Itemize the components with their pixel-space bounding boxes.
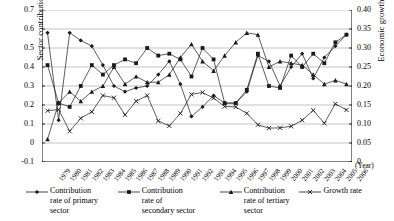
- legend-label-line: Growth rate: [323, 186, 361, 196]
- legend-label-line: rate of: [142, 196, 196, 206]
- y-tick-left-7: 0: [8, 138, 34, 147]
- legend-label-1: Contributionrate ofsecondary sector: [142, 186, 196, 216]
- series-1: [46, 33, 349, 109]
- legend-item-1[interactable]: Contributionrate ofsecondary sector: [118, 186, 220, 216]
- legend-label-0: Contributionrate of primarysector: [50, 186, 98, 216]
- y-tick-right-3: 0.25: [357, 62, 387, 71]
- y-tick-right-5: 0.15: [357, 100, 387, 109]
- series-0: [45, 31, 348, 123]
- plot-area: [42, 10, 352, 162]
- legend-label-line: sector: [244, 206, 290, 216]
- y-tick-left-4: 0.3: [8, 81, 34, 90]
- legend-item-2[interactable]: Contributionrate of tertiarysector: [220, 186, 300, 216]
- y-tick-left-3: 0.4: [8, 62, 34, 71]
- legend-item-0[interactable]: Contributionrate of primarysector: [26, 186, 118, 216]
- legend-label-line: Contribution: [142, 186, 196, 196]
- cross-marker: [299, 187, 321, 197]
- chart-legend: Contributionrate of primarysectorContrib…: [26, 186, 386, 216]
- y-tick-left-0: 0.7: [8, 5, 34, 14]
- y-tick-right-6: 0.10: [357, 119, 387, 128]
- legend-label-line: rate of primary: [50, 196, 98, 206]
- y-tick-left-1: 0.6: [8, 24, 34, 33]
- legend-label-line: Contribution: [50, 186, 98, 196]
- y-tick-left-6: 0.1: [8, 119, 34, 128]
- economic-contribution-chart: Sector contribution rate Economic growth…: [0, 0, 394, 221]
- y-tick-left-2: 0.5: [8, 43, 34, 52]
- y-tick-right-1: 0.35: [357, 24, 387, 33]
- y-tick-right-2: 0.30: [357, 43, 387, 52]
- legend-label-line: secondary sector: [142, 206, 196, 216]
- legend-label-3: Growth rate: [323, 186, 361, 196]
- series-canvas: [42, 10, 352, 162]
- y-tick-right-7: 0.05: [357, 138, 387, 147]
- legend-label-line: sector: [50, 206, 98, 216]
- legend-label-line: rate of tertiary: [244, 196, 290, 206]
- y-tick-right-8: 0: [357, 157, 387, 166]
- legend-label-line: Contribution: [244, 186, 290, 196]
- legend-label-2: Contributionrate of tertiarysector: [244, 186, 290, 216]
- square-marker: [118, 187, 140, 197]
- diamond-marker: [26, 187, 48, 197]
- y-tick-left-8: -0.1: [8, 157, 34, 166]
- y-tick-right-0: 0.40: [357, 5, 387, 14]
- triangle-marker: [220, 187, 242, 197]
- y-tick-left-5: 0.2: [8, 100, 34, 109]
- legend-item-3[interactable]: Growth rate: [299, 186, 386, 197]
- y-tick-right-4: 0.20: [357, 81, 387, 90]
